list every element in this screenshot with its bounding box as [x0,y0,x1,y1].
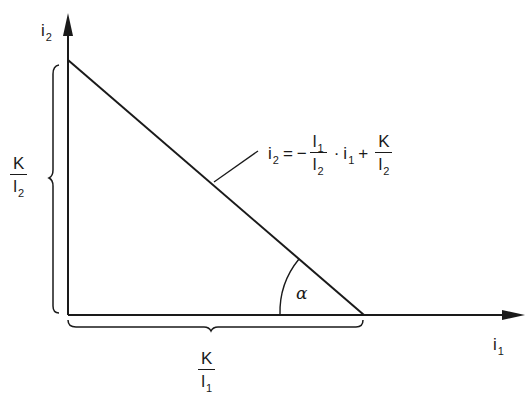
intercept-numerator: K [375,133,392,152]
x-intercept-den-main: l [201,372,205,391]
y-axis-label: i2 [41,22,52,39]
intercept-den-sub: 2 [383,165,389,177]
equation-variable: i1 [343,145,354,162]
slope-num-sub: 1 [318,142,324,154]
multiply-dot: · [334,145,340,162]
y-intercept-den: l2 [10,174,27,195]
line-equation: i2 = − l1 l2 · i1 + K l2 [268,133,396,173]
x-axis-arrow-icon [502,310,525,320]
slope-fraction: l1 l2 [310,133,327,173]
y-intercept-brace [49,65,59,313]
y-axis [63,13,73,315]
equation-lhs: i2 [268,145,279,162]
x-axis-label-main: i [493,335,497,354]
slope-numerator: l1 [310,133,327,152]
intercept-fraction: K l2 [375,133,392,173]
slope-num-main: l [313,132,317,151]
x-intercept-label: K l1 [198,350,215,390]
x-axis-label: i1 [493,336,504,353]
minus-sign: − [297,145,307,162]
slope-denominator: l2 [310,152,327,173]
equals-sign: = [283,145,293,162]
y-intercept-num: K [10,155,27,174]
x-intercept-num: K [198,350,215,369]
y-axis-label-sub: 2 [46,31,52,43]
slope-den-main: l [313,155,317,174]
budget-line [68,60,364,315]
equation-lhs-sub: 2 [273,154,279,166]
equation-var-main: i [343,144,347,163]
y-axis-arrow-icon [63,13,73,36]
y-intercept-den-main: l [13,177,17,196]
x-intercept-den-sub: 1 [206,382,212,394]
plus-sign: + [358,145,368,162]
x-axis [68,310,525,320]
intercept-denominator: l2 [375,152,392,173]
y-intercept-label: K l2 [10,155,27,195]
equation-lhs-main: i [268,144,272,163]
intercept-den-main: l [378,155,382,174]
y-intercept-den-sub: 2 [18,187,24,199]
y-axis-label-main: i [41,21,45,40]
x-intercept-brace [68,320,363,331]
equation-leader-line [214,151,258,182]
slope-den-sub: 2 [318,165,324,177]
equation-var-sub: 1 [348,154,354,166]
angle-alpha-label: α [296,285,307,302]
diagram-canvas [0,0,532,405]
x-intercept-den: l1 [198,369,215,390]
x-axis-label-sub: 1 [498,345,504,357]
